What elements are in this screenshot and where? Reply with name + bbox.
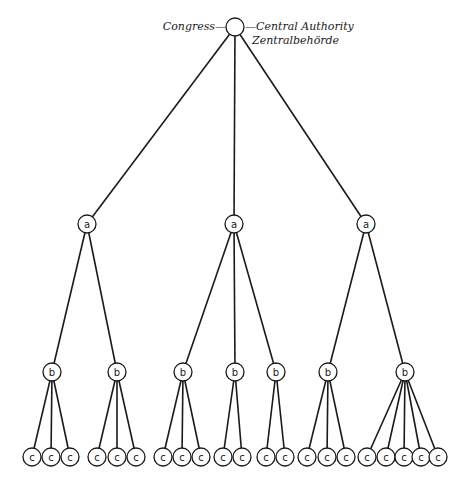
edges [32,27,438,457]
node-a-2-label: a [231,219,237,230]
node-c-6: c [127,448,145,466]
node-c-4-label: c [94,452,100,463]
edge-b-c19 [404,372,405,457]
node-c-18: c [377,448,395,466]
edge-root-a1 [87,27,235,224]
node-b-3-label: b [180,367,186,378]
node-b-1: b [43,363,61,381]
hierarchy-diagram: aaabbbbbbbccccccccccccccccccccc Congress… [0,0,472,494]
edge-root-a2 [234,27,235,224]
node-c-10-label: c [220,452,226,463]
node-c-21-label: c [435,452,441,463]
edge-a-b1 [52,224,87,372]
edge-b-c3 [52,372,70,457]
node-c-11-label: c [239,452,245,463]
edge-a-b3 [183,224,234,372]
node-c-6-label: c [133,452,139,463]
node-c-17: c [358,448,376,466]
edge-b-c14 [307,372,328,457]
node-c-14: c [298,448,316,466]
edge-b-c12 [266,372,276,457]
edge-root-a3 [235,27,366,224]
edge-b-c18 [386,372,405,457]
node-b-5: b [267,363,285,381]
congress-label: Congress— [163,20,226,33]
node-c-5: c [108,448,126,466]
node-c-13-label: c [282,452,288,463]
node-b-4-label: b [232,367,238,378]
edge-b-c11 [235,372,242,457]
edge-a-b7 [366,224,405,372]
node-b-2: b [108,363,126,381]
edge-b-c1 [32,372,52,457]
node-a-3: a [357,215,375,233]
node-c-12: c [257,448,275,466]
node-c-15: c [318,448,336,466]
edge-b-c9 [183,372,201,457]
central-authority-label: —Central Authority [245,20,355,33]
node-b-7: b [396,363,414,381]
node-c-8-label: c [179,452,185,463]
node-c-19: c [395,448,413,466]
node-c-18-label: c [383,452,389,463]
edge-b-c10 [223,372,235,457]
node-c-7-label: c [160,452,166,463]
node-c-4: c [88,448,106,466]
edge-b-c2 [51,372,52,457]
node-b-7-label: b [402,367,408,378]
node-b-1-label: b [49,367,55,378]
edge-b-c4 [97,372,117,457]
node-c-1: c [23,448,41,466]
node-a-1: a [78,215,96,233]
node-c-8: c [173,448,191,466]
node-c-13: c [276,448,294,466]
node-c-3-label: c [67,452,73,463]
node-c-15-label: c [324,452,330,463]
edge-b-c8 [182,372,183,457]
node-c-14-label: c [304,452,310,463]
edge-a-b4 [234,224,235,372]
edge-b-c15 [327,372,328,457]
node-c-16: c [337,448,355,466]
node-c-17-label: c [364,452,370,463]
node-b-6-label: b [325,367,331,378]
node-c-7: c [154,448,172,466]
node-c-2: c [42,448,60,466]
node-b-6: b [319,363,337,381]
edge-b-c21 [405,372,438,457]
node-c-12-label: c [263,452,269,463]
node-a-2: a [225,215,243,233]
zentralbehoerde-label: Zentralbehörde [251,34,340,47]
node-c-9: c [192,448,210,466]
node-c-20: c [412,448,430,466]
edge-b-c17 [367,372,405,457]
node-c-20-label: c [418,452,424,463]
edge-a-b5 [234,224,276,372]
node-c-11: c [233,448,251,466]
node-c-1-label: c [29,452,35,463]
node-c-5-label: c [114,452,120,463]
node-c-3: c [61,448,79,466]
central-authority-node [226,18,244,36]
node-b-4: b [226,363,244,381]
edge-b-c20 [405,372,421,457]
edge-b-c13 [276,372,285,457]
node-b-2-label: b [114,367,120,378]
node-c-19-label: c [401,452,407,463]
node-a-3-label: a [363,219,369,230]
node-c-16-label: c [343,452,349,463]
node-c-9-label: c [198,452,204,463]
edge-b-c16 [328,372,346,457]
central-authority-node-circle [226,18,244,36]
edge-b-c6 [117,372,136,457]
node-a-1-label: a [84,219,90,230]
node-b-3: b [174,363,192,381]
node-c-2-label: c [48,452,54,463]
node-c-21: c [429,448,447,466]
node-b-5-label: b [273,367,279,378]
edge-a-b6 [328,224,366,372]
edge-b-c7 [163,372,183,457]
edge-a-b2 [87,224,117,372]
node-c-10: c [214,448,232,466]
